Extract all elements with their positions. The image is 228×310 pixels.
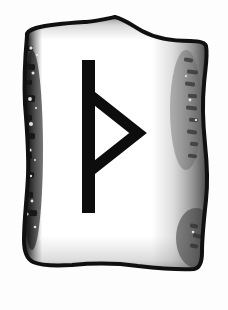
texture-streak — [190, 142, 198, 147]
texture-speckle — [29, 122, 33, 126]
texture-speckle — [36, 54, 38, 56]
texture-speckle — [189, 99, 192, 102]
texture-streak — [188, 94, 197, 99]
texture-speckle — [34, 226, 37, 229]
texture-streak — [27, 64, 35, 71]
texture-speckle — [40, 237, 43, 240]
texture-speckle — [31, 200, 34, 203]
stone-canvas — [0, 0, 228, 310]
texture-speckle — [35, 107, 37, 109]
texture-speckle — [30, 175, 32, 177]
texture-speckle — [192, 231, 195, 234]
texture-streak — [28, 210, 38, 217]
texture-speckle — [32, 72, 35, 75]
rune-stone-illustration: Thurisaz Rune Stone Þ Thurisaz th rune s… — [0, 0, 228, 310]
texture-speckle — [28, 97, 32, 101]
upper-right-shadow-blob — [170, 50, 202, 170]
rune-stave — [82, 60, 95, 213]
texture-speckle — [195, 119, 197, 121]
texture-speckle — [29, 46, 32, 49]
texture-speckle — [34, 159, 36, 161]
texture-speckle — [185, 75, 187, 77]
